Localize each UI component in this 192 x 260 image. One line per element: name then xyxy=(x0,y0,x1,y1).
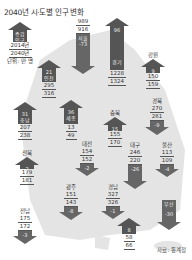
region-incheon: 21인천 295 316 xyxy=(32,60,66,98)
region-gyeongnam: 경남 327 326 -1 xyxy=(96,184,130,219)
region-gwangju: 광주 151 143 -8 xyxy=(54,184,88,220)
region-ulsan: 울산 113 109 -4 xyxy=(150,142,184,177)
source-note: 자료: 통계청 xyxy=(157,246,186,254)
region-jeonbuk: 전북 2 179 181 xyxy=(10,150,44,185)
region-busan: 부산-30 xyxy=(152,200,186,230)
region-gyeongbuk: 경북 270 261 -9 xyxy=(140,98,174,135)
region-gyeonggi: 96경기 1228 1324 xyxy=(100,18,134,86)
region-daegu: 대구 246 220 -26 xyxy=(118,142,152,189)
region-chungnam: 31충남 207 238 xyxy=(8,102,42,140)
legend: 증감 인구 2014년 2040년 단위: 만 명 xyxy=(2,22,38,65)
region-seoul: 989 916 서울-73 xyxy=(66,18,100,74)
region-sejong: 36세종 13 49 xyxy=(54,100,88,140)
region-jeonnam: 전남 175 172 -3 xyxy=(8,208,42,244)
region-daejeon: 대전 154 152 -2 xyxy=(70,141,104,176)
legend-arrow: 증감 인구 xyxy=(2,22,38,42)
chart-title: 2040년 시·도별 인구 변화 xyxy=(4,6,84,17)
region-jeju: 8 58 66 xyxy=(112,218,146,250)
region-gangwon: 강원 9 150 159 xyxy=(136,52,170,89)
